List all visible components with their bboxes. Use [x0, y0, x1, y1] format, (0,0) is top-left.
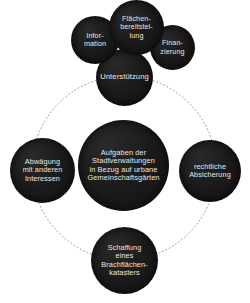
node-land-provision-label: Flächen- bereitstel- lung: [118, 15, 155, 39]
node-brownfield-cadastre-label: Schaffung eines Brachflächen- katasters: [99, 244, 149, 277]
node-center-topic-label: Aufgaben der Stadtverwaltungen in Bezug …: [85, 149, 161, 182]
node-support-label: Unterstützung: [98, 73, 151, 82]
node-funding-label: Finan- zierung: [158, 39, 186, 55]
node-legal-safeguarding-label: rechtliche Absicherung: [187, 163, 233, 179]
node-center-topic[interactable]: Aufgaben der Stadtverwaltungen in Bezug …: [78, 120, 169, 211]
node-brownfield-cadastre[interactable]: Schaffung eines Brachflächen- katasters: [91, 227, 158, 294]
node-information-label: Infor- mation: [82, 32, 108, 48]
node-weighing-interests[interactable]: Abwägung mit anderen Interessen: [10, 138, 75, 203]
node-land-provision[interactable]: Flächen- bereitstel- lung: [109, 0, 164, 55]
node-legal-safeguarding[interactable]: rechtliche Absicherung: [179, 140, 241, 202]
diagram-canvas: Aufgaben der Stadtverwaltungen in Bezug …: [0, 0, 250, 303]
node-weighing-interests-label: Abwägung mit anderen Interessen: [21, 158, 65, 183]
